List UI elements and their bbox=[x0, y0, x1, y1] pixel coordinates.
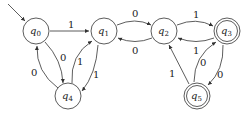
start-arrow bbox=[8, 4, 25, 21]
edge-q3-q2 bbox=[178, 38, 214, 42]
edge-label-q0-q4: 0 bbox=[60, 52, 66, 63]
edge-label-q0-q1: 1 bbox=[68, 19, 74, 30]
state-label-q0: q0 bbox=[30, 25, 41, 38]
edge-label-q4-q1: 1 bbox=[77, 56, 83, 67]
state-label-q1: q1 bbox=[98, 25, 109, 38]
state-label-q3: q3 bbox=[221, 25, 232, 38]
state-label-q4: q4 bbox=[62, 90, 73, 103]
edge-q1-q4 bbox=[82, 45, 98, 91]
state-label-q5: q5 bbox=[191, 90, 202, 103]
edge-q1-q2 bbox=[117, 21, 151, 25]
edge-label-q2-q3: 1 bbox=[193, 9, 199, 20]
edge-label-q3-q2: 1 bbox=[193, 45, 199, 56]
edge-q2-q1 bbox=[118, 38, 152, 42]
edge-q4-q0 bbox=[37, 46, 58, 88]
edge-label-q1-q2: 0 bbox=[132, 8, 138, 19]
edge-label-q4-q0: 0 bbox=[31, 67, 37, 78]
automaton-diagram: q0 q1 q2 q3 q4 q5 1 0 0 1 1 0 0 1 1 1 0 … bbox=[0, 0, 251, 124]
state-label-q2: q2 bbox=[158, 25, 169, 38]
edge-label-q5-q3: 0 bbox=[200, 57, 206, 68]
edge-label-q2-q1: 0 bbox=[132, 45, 138, 56]
edge-q2-q3 bbox=[177, 21, 213, 26]
edge-label-q3-q5: 0 bbox=[217, 69, 223, 80]
edge-label-q5-q2: 1 bbox=[169, 68, 175, 79]
edge-label-q1-q4: 1 bbox=[93, 69, 99, 80]
